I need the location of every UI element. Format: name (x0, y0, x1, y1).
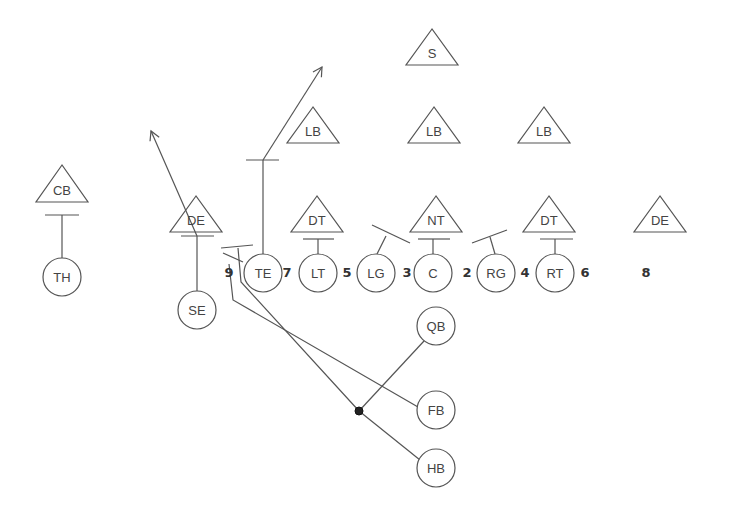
player-fb[interactable]: FB (417, 391, 455, 429)
player-label: LT (311, 266, 325, 281)
defense-group: S LB LB LB CB DE DT NT (36, 29, 686, 232)
defender-label: S (428, 46, 437, 61)
defender-label: DT (540, 213, 557, 228)
defender-s[interactable]: S (406, 29, 458, 65)
defender-de-left[interactable]: DE (170, 196, 222, 232)
defender-label: LB (536, 124, 552, 139)
defender-dt-left[interactable]: DT (291, 196, 343, 232)
player-label: QB (427, 319, 446, 334)
defender-lb-middle[interactable]: LB (408, 107, 460, 143)
player-qb[interactable]: QB (417, 307, 455, 345)
gap-number-5: 5 (342, 265, 351, 280)
player-label: FB (428, 403, 445, 418)
defender-label: NT (427, 213, 444, 228)
player-label: RG (486, 266, 506, 281)
gap-number-7: 7 (282, 265, 291, 280)
player-c[interactable]: C (414, 254, 452, 292)
player-te[interactable]: TE (244, 254, 282, 292)
defender-lb-left[interactable]: LB (287, 107, 339, 143)
block-line-rg (490, 237, 495, 254)
player-lg[interactable]: LG (357, 254, 395, 292)
defender-label: DE (651, 213, 669, 228)
player-label: TE (255, 266, 272, 281)
gap-number-3: 3 (402, 265, 411, 280)
player-label: HB (427, 461, 445, 476)
player-rg[interactable]: RG (477, 254, 515, 292)
block-line-lg (377, 236, 386, 254)
ball-handoff-point-icon (355, 407, 363, 415)
gap-number-2: 2 (462, 265, 471, 280)
player-label: SE (188, 303, 206, 318)
defender-nt[interactable]: NT (410, 196, 462, 232)
player-label: C (428, 266, 437, 281)
gap-number-9: 9 (224, 265, 233, 280)
block-bar-rg (472, 230, 507, 243)
defender-label: DT (308, 213, 325, 228)
defender-de-right[interactable]: DE (634, 196, 686, 232)
route-line-hb (359, 411, 420, 460)
player-rt[interactable]: RT (536, 254, 574, 292)
route-line-qb (359, 341, 424, 411)
defender-cb[interactable]: CB (36, 165, 88, 202)
player-hb[interactable]: HB (417, 449, 455, 487)
defender-lb-right[interactable]: LB (518, 107, 570, 143)
play-diagram: S LB LB LB CB DE DT NT (0, 0, 731, 517)
player-label: LG (367, 266, 384, 281)
gap-number-8: 8 (641, 265, 650, 280)
defender-label: LB (305, 124, 321, 139)
gap-number-6: 6 (580, 265, 589, 280)
block-bar-lg (372, 225, 410, 243)
player-label: RT (546, 266, 563, 281)
gap-number-4: 4 (520, 265, 529, 280)
player-th[interactable]: TH (43, 258, 81, 296)
defender-dt-right[interactable]: DT (523, 196, 575, 232)
defender-label: DE (187, 213, 205, 228)
player-lt[interactable]: LT (299, 254, 337, 292)
player-label: TH (53, 270, 70, 285)
offense-group: TH SE TE LT LG C RG RT (43, 254, 574, 487)
defender-label: CB (53, 183, 71, 198)
block-bar-fb (223, 253, 243, 262)
player-se[interactable]: SE (178, 291, 216, 329)
defender-label: LB (426, 124, 442, 139)
block-bar-hb (221, 245, 253, 248)
